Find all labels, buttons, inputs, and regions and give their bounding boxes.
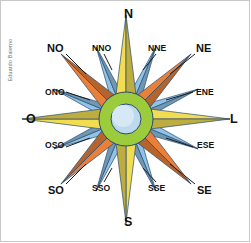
compass-label-sso: SSO bbox=[92, 184, 110, 193]
compass-rose-graphic bbox=[0, 0, 251, 243]
compass-label-s: S bbox=[124, 216, 132, 229]
hub-highlight bbox=[112, 105, 134, 127]
compass-label-so: SO bbox=[48, 185, 64, 196]
compass-label-oso: OSO bbox=[45, 141, 64, 150]
compass-label-se: SE bbox=[197, 185, 212, 196]
compass-label-nno: NNO bbox=[92, 44, 111, 53]
compass-label-o: O bbox=[26, 113, 36, 126]
compass-rose-svg bbox=[0, 0, 251, 243]
compass-label-ne: NE bbox=[196, 43, 211, 54]
compass-label-no: NO bbox=[47, 43, 64, 54]
compass-hub bbox=[99, 92, 153, 146]
compass-label-sse: SSE bbox=[148, 184, 165, 193]
compass-label-ese: ESE bbox=[197, 141, 214, 150]
compass-label-ene: ENE bbox=[196, 88, 214, 97]
compass-label-ono: ONO bbox=[45, 88, 65, 97]
leader-line-se bbox=[170, 164, 195, 184]
compass-rose-figure: Eduardo Baierno NNNENEENELESESESSESSSOSO… bbox=[0, 0, 251, 243]
compass-label-l: L bbox=[230, 113, 238, 126]
compass-label-n: N bbox=[124, 8, 133, 21]
leader-line-ne bbox=[170, 54, 195, 74]
compass-label-nne: NNE bbox=[148, 44, 166, 53]
